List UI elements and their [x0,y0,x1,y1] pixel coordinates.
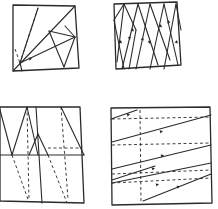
panel-bottom-left-diagram [0,107,84,203]
direction-arrow-icon [175,40,178,43]
direction-arrow-icon [127,114,130,117]
dashed-path-line [27,107,29,200]
solid-path-line [112,166,155,180]
panel-top-right-diagram [114,2,181,69]
solid-path-line [38,134,48,155]
dashed-path-line [61,107,68,199]
solid-path-line [122,4,138,69]
dashed-path-line [12,155,29,202]
dashed-path-line [15,49,20,63]
direction-arrow-icon [156,183,159,186]
geometric-path-diagram [0,0,218,209]
solid-path-line [124,4,136,30]
dashed-path-line [48,155,67,203]
solid-path-line [0,110,12,155]
panel-bottom-right-diagram [111,107,212,205]
solid-path-line [111,110,137,119]
dashed-path-line [112,143,211,145]
solid-path-line [12,107,27,155]
solid-path-line [143,174,211,201]
solid-path-line [20,63,22,71]
solid-path-line [49,31,64,67]
dashed-path-line [140,110,141,203]
solid-path-line [112,115,211,142]
direction-arrow-icon [152,167,155,170]
solid-path-line [136,4,150,69]
panel-top-left-diagram [13,5,79,71]
direction-arrow-icon [160,130,163,133]
